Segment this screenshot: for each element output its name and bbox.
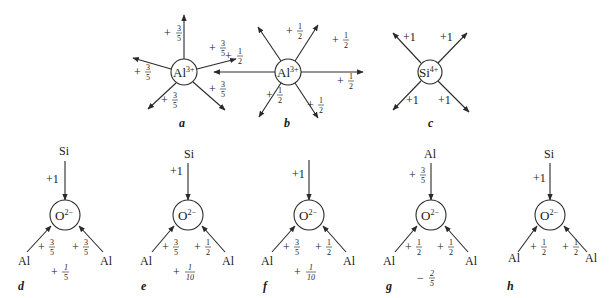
svg-text:+: + (194, 240, 201, 254)
svg-text:3: 3 (84, 238, 88, 247)
svg-text:1: 1 (64, 263, 68, 272)
bond-label: +35 (283, 238, 300, 257)
svg-text:1: 1 (188, 263, 192, 272)
excess-charge: +15 (51, 263, 69, 282)
svg-text:5: 5 (84, 248, 88, 257)
top-atom: Si (544, 147, 555, 161)
panel-d: Si +1 O2− Al Al +35 +35 +15 d (18, 144, 113, 293)
svg-text:5: 5 (64, 273, 68, 282)
bond-label: +12 (337, 72, 354, 91)
bond-label: +1 (170, 164, 183, 178)
svg-text:2: 2 (574, 248, 578, 257)
bond-label: +1 (46, 172, 59, 186)
svg-text:+: + (173, 265, 180, 279)
svg-text:2: 2 (449, 248, 453, 257)
svg-text:3: 3 (177, 24, 181, 33)
excess-charge: +110 (294, 263, 316, 282)
panel-c: Si4+ +1 +1 +1 +1 c (393, 30, 469, 130)
bond-label: +12 (286, 22, 303, 41)
svg-text:3: 3 (221, 39, 225, 48)
panel-b: Al3+ +12 +12 +12 +12 +12 +12 b (214, 22, 363, 130)
panel-caption: d (18, 279, 25, 293)
panel-caption: b (284, 116, 290, 130)
svg-text:3: 3 (174, 238, 178, 247)
svg-text:5: 5 (295, 248, 299, 257)
svg-text:2: 2 (327, 248, 331, 257)
svg-text:2: 2 (344, 41, 348, 50)
panel-caption: e (141, 279, 147, 293)
svg-text:+: + (562, 240, 569, 254)
svg-text:1: 1 (349, 72, 353, 81)
bond-label: +1 (438, 93, 451, 107)
svg-text:+: + (72, 240, 79, 254)
bond-label: +35 (161, 91, 178, 110)
right-atom: Al (222, 254, 235, 268)
bond-label: +1 (403, 30, 416, 44)
excess-charge: +110 (173, 263, 195, 282)
left-atom: Al (18, 254, 31, 268)
bond-label: +35 (409, 166, 426, 185)
bond-arrow (258, 27, 281, 61)
svg-text:2: 2 (430, 269, 434, 278)
svg-text:5: 5 (177, 34, 181, 43)
panel-h: Si +1 O2− Al Al +12 +12 h (507, 147, 598, 293)
bond-label: +35 (162, 238, 179, 257)
svg-text:2: 2 (417, 248, 421, 257)
svg-text:2: 2 (278, 96, 282, 105)
svg-text:+: + (38, 240, 45, 254)
left-atom: Al (383, 254, 396, 268)
bond-arrow (79, 226, 103, 252)
svg-text:+: + (530, 240, 537, 254)
top-atom: Si (184, 147, 195, 161)
svg-text:+: + (209, 41, 216, 55)
bond-label: +1 (440, 30, 453, 44)
svg-text:+: + (51, 265, 58, 279)
svg-text:5: 5 (146, 73, 150, 82)
bond-strength-diagram: Al3+ +35 +35 +35 +35 +35 a Al3+ +12 +12 … (0, 0, 609, 298)
svg-text:+: + (225, 49, 232, 63)
svg-text:5: 5 (430, 279, 434, 288)
svg-text:1: 1 (298, 22, 302, 31)
svg-text:2: 2 (206, 248, 210, 257)
panel-caption: h (507, 279, 514, 293)
svg-text:10: 10 (307, 273, 315, 282)
svg-text:1: 1 (344, 31, 348, 40)
svg-text:3: 3 (421, 166, 425, 175)
svg-text:+: + (164, 26, 171, 40)
bond-label: +35 (134, 63, 151, 82)
svg-text:3: 3 (50, 238, 54, 247)
bond-label: +12 (405, 238, 422, 257)
svg-text:3: 3 (221, 80, 225, 89)
svg-text:+: + (286, 24, 293, 38)
panel-e: Si +1 O2− Al Al +35 +12 +110 e (140, 147, 235, 293)
svg-text:1: 1 (278, 86, 282, 95)
svg-text:3: 3 (173, 91, 177, 100)
svg-text:1: 1 (327, 238, 331, 247)
bond-label: +12 (194, 238, 211, 257)
bond-label: +1 (533, 171, 546, 185)
svg-text:+: + (405, 240, 412, 254)
svg-text:5: 5 (50, 248, 54, 257)
panel-caption: a (179, 116, 185, 130)
svg-text:+: + (283, 240, 290, 254)
bond-label: +12 (562, 238, 579, 257)
svg-text:10: 10 (186, 273, 194, 282)
svg-text:−: − (417, 271, 424, 285)
svg-text:+: + (209, 82, 216, 96)
svg-text:1: 1 (238, 47, 242, 56)
svg-text:+: + (162, 240, 169, 254)
svg-text:1: 1 (449, 238, 453, 247)
top-atom: Al (424, 147, 437, 161)
bond-label: +35 (164, 24, 182, 43)
bond-label: +1 (292, 167, 305, 181)
svg-text:1: 1 (206, 238, 210, 247)
right-atom: Al (585, 251, 598, 265)
bond-label: +35 (209, 80, 226, 99)
right-atom: Al (465, 254, 478, 268)
svg-text:2: 2 (319, 106, 323, 115)
svg-text:+: + (161, 93, 168, 107)
svg-text:2: 2 (298, 32, 302, 41)
svg-text:+: + (437, 240, 444, 254)
svg-text:1: 1 (319, 96, 323, 105)
svg-text:5: 5 (174, 248, 178, 257)
